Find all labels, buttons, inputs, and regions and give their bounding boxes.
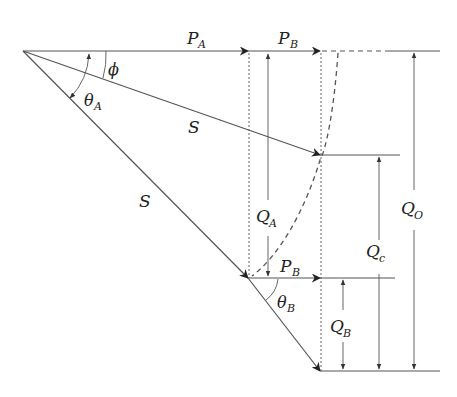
svg-text:B: B [289, 38, 298, 51]
label-pb-top: P B [277, 28, 298, 51]
phi-angle-arc [103, 51, 106, 78]
svg-text:Q: Q [330, 316, 344, 336]
svg-text:B: B [342, 327, 351, 340]
label-pb-bottom: P B [279, 256, 300, 279]
svg-text:A: A [268, 217, 277, 230]
s-upper-vector [23, 51, 320, 155]
svg-text:O: O [414, 209, 423, 222]
s-lower-vector [23, 51, 248, 278]
svg-text:A: A [93, 100, 102, 113]
svg-text:S: S [139, 191, 151, 211]
svg-text:B: B [291, 266, 300, 279]
svg-text:ϕ: ϕ [108, 60, 119, 79]
svg-text:A: A [197, 38, 206, 51]
phasor-diagram: P A P B ϕ θ A S S Q A Q c Q O P B θ B Q … [0, 0, 457, 397]
svg-text:Q: Q [366, 241, 380, 261]
svg-text:Q: Q [401, 198, 415, 218]
svg-text:S: S [188, 117, 200, 137]
label-theta-a: θ A [84, 91, 102, 113]
svg-text:P: P [277, 28, 290, 48]
s-lower-continuation [248, 278, 320, 371]
svg-text:Q: Q [256, 206, 270, 226]
dashed-locus-curve [252, 53, 338, 276]
label-theta-b: θ B [277, 293, 295, 315]
label-phi: ϕ [108, 60, 119, 79]
svg-text:P: P [279, 256, 292, 276]
svg-text:c: c [379, 252, 385, 265]
label-pa: P A [186, 28, 206, 51]
svg-text:θ: θ [84, 91, 94, 110]
label-s-lower: S [139, 191, 151, 211]
svg-text:B: B [286, 302, 295, 315]
svg-text:θ: θ [277, 293, 287, 312]
label-s-upper: S [188, 117, 200, 137]
